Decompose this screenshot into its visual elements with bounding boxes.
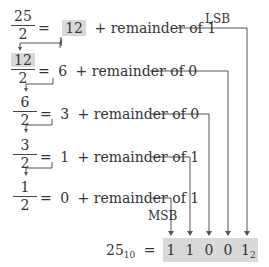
bit: 1 <box>184 243 196 257</box>
bit: 0 <box>203 243 215 257</box>
equals-sign: = <box>40 190 52 206</box>
fraction-row-1: 25 2 <box>11 9 35 41</box>
numerator: 1 <box>13 180 37 194</box>
denominator: 2 <box>13 198 37 212</box>
connector-lines <box>0 0 269 267</box>
fraction-row-2: 12 2 <box>11 53 35 85</box>
result-decimal: 2510 = <box>106 242 155 258</box>
fraction-row-5: 1 2 <box>13 180 37 212</box>
fraction-row-4: 3 2 <box>13 138 37 170</box>
equation-row-2: = 6 + remainder of 0 <box>38 63 197 79</box>
equation-row-3: = 3 + remainder of 0 <box>40 106 199 122</box>
remainder-text: + remainder of 0 <box>78 106 200 122</box>
numerator: 25 <box>11 9 35 23</box>
numerator: 3 <box>13 138 37 152</box>
remainder-text: + remainder of 1 <box>78 190 200 206</box>
quotient: 3 <box>60 106 69 122</box>
equals-sign: = <box>38 20 50 36</box>
decimal-value: 25 <box>106 242 124 258</box>
binary-base: 2 <box>250 250 256 260</box>
quotient: 0 <box>60 190 69 206</box>
numerator-highlight: 12 <box>11 53 35 67</box>
denominator: 2 <box>13 156 37 170</box>
equals-sign: = <box>40 106 52 122</box>
denominator: 2 <box>11 27 35 41</box>
equation-row-5: = 0 + remainder of 1 <box>40 190 199 206</box>
remainder-text: + remainder of 1 <box>78 149 200 165</box>
bit-lsb: 12 <box>241 243 257 257</box>
equation-row-1: = 12 + remainder of 1 <box>38 20 216 36</box>
remainder-text: + remainder of 0 <box>76 63 198 79</box>
equals-sign: = <box>40 149 52 165</box>
msb-label: MSB <box>148 210 177 222</box>
bit-msb: 1 <box>165 243 177 257</box>
bit: 0 <box>222 243 234 257</box>
quotient: 6 <box>58 63 67 79</box>
lsb-label: LSB <box>205 13 230 25</box>
denominator: 2 <box>11 71 35 85</box>
quotient: 1 <box>60 149 69 165</box>
equation-row-4: = 1 + remainder of 1 <box>40 149 199 165</box>
bit-lsb-value: 1 <box>241 242 250 258</box>
equals-sign: = <box>144 242 156 258</box>
numerator: 6 <box>13 95 37 109</box>
fraction-row-3: 6 2 <box>13 95 37 127</box>
quotient-highlight: 12 <box>62 20 86 36</box>
decimal-base: 10 <box>124 250 135 260</box>
remainder-text: + remainder of 1 <box>94 20 216 36</box>
equals-sign: = <box>38 63 50 79</box>
denominator: 2 <box>13 113 37 127</box>
